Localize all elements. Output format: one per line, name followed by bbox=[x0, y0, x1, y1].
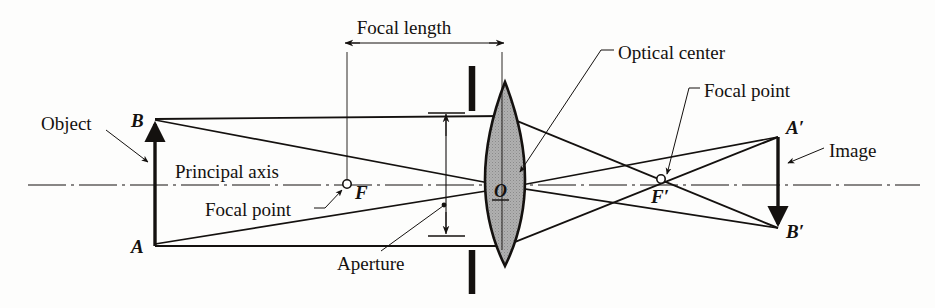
point-label-a-prime: A′ bbox=[785, 117, 804, 138]
diagram-canvas: Focal length Optical center Focal point … bbox=[0, 0, 935, 308]
focal-length-label: Focal length bbox=[357, 17, 452, 38]
leader-object bbox=[106, 130, 148, 162]
focal-point-f-prime-marker bbox=[657, 175, 665, 183]
point-label-a: A bbox=[130, 236, 144, 257]
leader-image bbox=[788, 148, 824, 163]
leader-focal-point-right bbox=[667, 88, 700, 174]
point-label-f: F bbox=[354, 182, 368, 203]
focal-point-left-label: Focal point bbox=[205, 199, 292, 220]
converging-lens bbox=[485, 82, 525, 266]
focal-point-f-marker bbox=[343, 180, 351, 188]
focal-point-right-label: Focal point bbox=[704, 80, 791, 101]
principal-axis-label: Principal axis bbox=[175, 161, 279, 182]
optical-center-point-group: O bbox=[492, 181, 509, 201]
leader-focal-point-left bbox=[314, 190, 342, 208]
image-label: Image bbox=[829, 140, 876, 161]
aperture-label: Aperture bbox=[337, 253, 405, 274]
object-label: Object bbox=[41, 113, 92, 134]
point-label-b-prime: B′ bbox=[785, 221, 804, 242]
point-label-b: B bbox=[130, 110, 144, 131]
point-label-f-prime: F′ bbox=[650, 186, 669, 207]
aperture-dimension bbox=[428, 113, 465, 236]
optics-diagram: Focal length Optical center Focal point … bbox=[0, 0, 935, 308]
point-label-o: O bbox=[494, 181, 507, 201]
optical-center-label: Optical center bbox=[618, 42, 726, 63]
leader-aperture bbox=[381, 203, 446, 251]
leader-optical-center bbox=[520, 50, 614, 172]
